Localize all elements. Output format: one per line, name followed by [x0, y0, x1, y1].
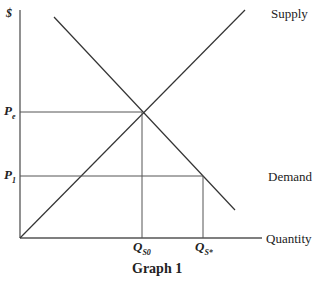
x-axis-label: Quantity: [266, 231, 312, 247]
supply-curve: [20, 10, 245, 238]
qs-star-label: QS*: [195, 239, 213, 257]
p1-label: P1: [4, 167, 16, 185]
y-axis-label: $: [6, 6, 12, 21]
demand-label: Demand: [268, 169, 312, 185]
qs0-label: QS0: [133, 239, 151, 257]
demand-curve: [54, 17, 235, 210]
pe-label: Pe: [4, 103, 16, 121]
supply-label: Supply: [271, 6, 308, 22]
graph-title: Graph 1: [132, 261, 182, 277]
